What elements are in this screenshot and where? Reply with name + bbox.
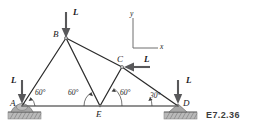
angle-arrowheads bbox=[29, 89, 153, 101]
angle-label-at-E-right: 60° bbox=[120, 89, 131, 97]
load-label-B: L bbox=[73, 8, 79, 17]
member-EC bbox=[100, 67, 122, 106]
joint-label-C: C bbox=[117, 55, 123, 64]
load-label-D: L bbox=[186, 76, 192, 85]
coordinate-axes bbox=[133, 18, 158, 48]
ground-hatch-D bbox=[164, 112, 197, 119]
member-BC bbox=[66, 38, 122, 67]
angle-label-at-A: 60° bbox=[35, 89, 46, 97]
axis-label-y: y bbox=[130, 10, 133, 18]
figure-id-label: E7.2.36 bbox=[206, 110, 240, 120]
angle-label-at-E-left: 60° bbox=[68, 89, 79, 97]
joint-label-E: E bbox=[96, 110, 102, 119]
joint-dot-E bbox=[99, 105, 101, 107]
angle-arcs bbox=[31, 89, 153, 107]
load-arrow-B bbox=[62, 12, 71, 38]
load-label-C: L bbox=[144, 55, 150, 64]
ground-hatch-A bbox=[8, 112, 41, 119]
joint-label-D: D bbox=[183, 99, 190, 108]
joint-dot-C bbox=[121, 66, 124, 69]
axis-label-x: x bbox=[160, 43, 163, 51]
joint-label-B: B bbox=[53, 30, 59, 39]
truss-figure: A B C D E L L L L 60° 60° 60° 30° y x E7… bbox=[0, 0, 260, 136]
joint-label-A: A bbox=[10, 99, 16, 108]
load-arrow-D bbox=[174, 80, 182, 104]
load-label-A: L bbox=[11, 76, 17, 85]
angle-label-at-D: 30° bbox=[150, 92, 161, 100]
